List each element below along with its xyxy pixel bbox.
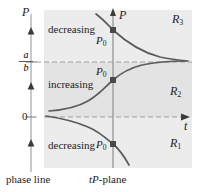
initial-point-label-r3: P0 — [96, 35, 106, 46]
region-index-r1: 1 — [177, 142, 181, 151]
initial-point-sub-r1: 0 — [103, 143, 107, 152]
behaviour-label-r1: decreasing — [48, 140, 95, 151]
region-index-r3: 3 — [179, 18, 183, 27]
phase-line-axis-label: P — [22, 6, 29, 18]
initial-point-letter-r1: P — [96, 138, 103, 150]
phase-line-tp-plane-figure: P a b 0 P t decreasing increasing decrea… — [0, 0, 201, 192]
equilibrium-numerator: a — [19, 50, 33, 61]
phase-line-arrow-middle — [28, 82, 35, 90]
tp-plane-caption: tP-plane — [89, 174, 126, 185]
phase-line-caption: phase line — [6, 174, 50, 185]
tp-plane-caption-italic: tP — [89, 173, 99, 185]
phase-line-arrow-lower — [28, 139, 35, 147]
behaviour-label-r2: increasing — [48, 79, 93, 90]
equilibrium-denominator: b — [19, 63, 33, 74]
initial-point-label-r2: P0 — [96, 66, 106, 77]
region-label-r3: R3 — [172, 13, 183, 25]
behaviour-label-r3: decreasing — [48, 24, 95, 35]
region-index-r2: 2 — [177, 90, 181, 99]
t-axis-label: t — [184, 120, 187, 132]
phase-line-arrow-upper — [28, 27, 35, 35]
equilibrium-label-zero: 0 — [22, 111, 28, 122]
initial-point-sub-r3: 0 — [103, 39, 107, 48]
region-label-r1: R1 — [170, 137, 181, 149]
tp-plane-caption-rest: -plane — [99, 173, 126, 185]
initial-point-letter-r2: P — [96, 65, 103, 77]
equilibrium-label-a-over-b: a b — [19, 50, 33, 73]
initial-point-sub-r2: 0 — [103, 70, 107, 79]
initial-point-marker-r1 — [110, 141, 116, 147]
initial-point-marker-r2 — [110, 77, 116, 83]
initial-point-letter-r3: P — [96, 34, 103, 46]
p-axis-label: P — [119, 9, 126, 21]
region-label-r2: R2 — [170, 85, 181, 97]
initial-point-label-r1: P0 — [96, 139, 106, 150]
initial-point-marker-r3 — [110, 27, 116, 33]
